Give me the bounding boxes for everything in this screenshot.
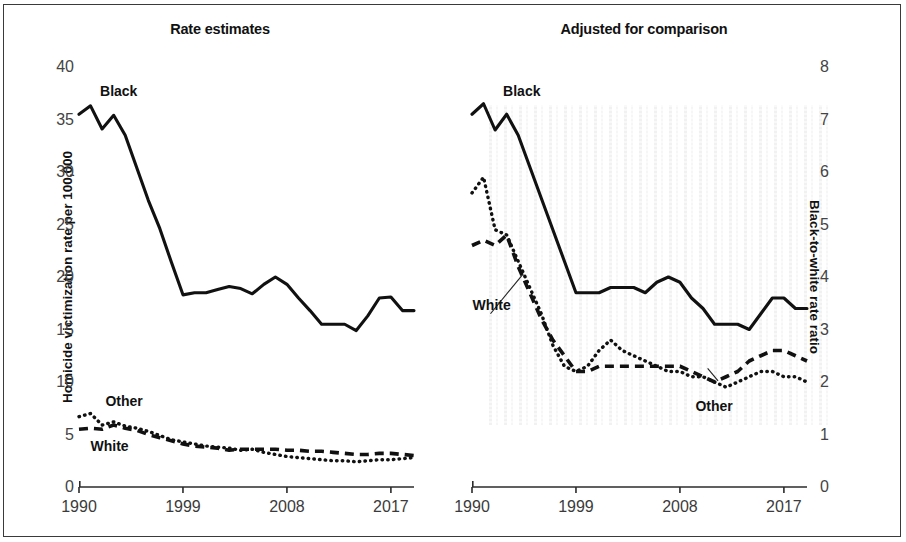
y-axis-tick-label: 25 (40, 217, 74, 233)
x-axis-tick-label: 2008 (662, 499, 698, 515)
right-chart-svg (472, 67, 807, 487)
left-series-label-black: Black (100, 84, 137, 98)
y-axis-tick-label: 7 (820, 112, 854, 128)
panel-rate-estimates: Rate estimates Homicide victimization ra… (4, 5, 456, 536)
left-chart-svg (79, 67, 414, 487)
y-axis-tick-label: 35 (40, 112, 74, 128)
x-axis-tick-label: 1999 (558, 499, 594, 515)
right-series-label-white: White (473, 298, 511, 312)
panel-adjusted-for-comparison: Adjusted for comparison Black-to-white r… (456, 5, 902, 536)
y-axis-tick-label: 3 (820, 322, 854, 338)
left-series-label-other: Other (105, 394, 142, 408)
x-axis-tick-label: 1990 (61, 499, 97, 515)
x-axis-tick-label: 2017 (766, 499, 802, 515)
y-axis-tick-label: 20 (40, 269, 74, 285)
right-plot-area: Black-to-white rate ratio Black White Ot… (472, 67, 807, 487)
left-panel-title: Rate estimates (4, 21, 456, 37)
figure-frame: Rate estimates Homicide victimization ra… (3, 4, 901, 537)
right-series-label-black: Black (503, 84, 540, 98)
series-line-other (472, 177, 807, 387)
x-axis-tick-label: 2017 (373, 499, 409, 515)
y-axis-tick-label: 30 (40, 164, 74, 180)
series-line-black (472, 104, 807, 330)
y-axis-tick-label: 0 (820, 479, 854, 495)
y-axis-tick-label: 8 (820, 59, 854, 75)
y-axis-tick-label: 6 (820, 164, 854, 180)
y-axis-tick-label: 40 (40, 59, 74, 75)
left-plot-area: Homicide victimization rate per 100,000 … (79, 67, 414, 487)
series-line-black (79, 106, 414, 331)
right-series-label-other: Other (695, 399, 732, 413)
right-panel-title: Adjusted for comparison (456, 21, 902, 37)
y-axis-tick-label: 0 (40, 479, 74, 495)
y-axis-tick-label: 2 (820, 374, 854, 390)
y-axis-tick-label: 15 (40, 322, 74, 338)
y-axis-tick-label: 4 (820, 269, 854, 285)
y-axis-tick-label: 10 (40, 374, 74, 390)
y-axis-tick-label: 1 (820, 427, 854, 443)
x-axis-tick-label: 2008 (269, 499, 305, 515)
y-axis-tick-label: 5 (820, 217, 854, 233)
left-series-label-white: White (91, 439, 129, 453)
y-axis-tick-label: 5 (40, 427, 74, 443)
x-axis-tick-label: 1990 (454, 499, 490, 515)
x-axis-tick-label: 1999 (165, 499, 201, 515)
